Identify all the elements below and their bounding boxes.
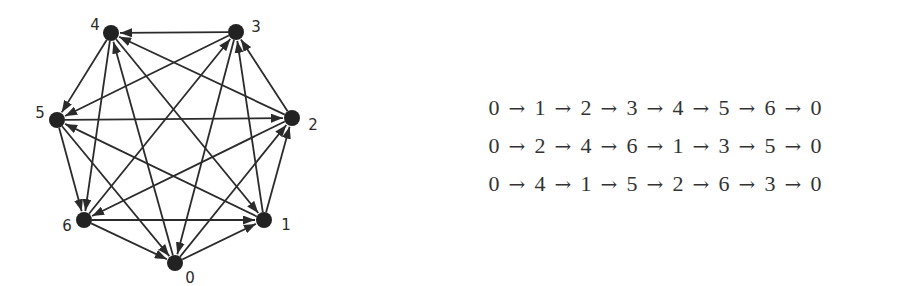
edge-1-to-2 — [266, 127, 290, 213]
tour-vertex: 1 — [534, 94, 546, 122]
node-label-4: 4 — [90, 16, 100, 34]
edge-5-to-0 — [62, 126, 169, 256]
arrow-right-icon: → — [776, 132, 810, 160]
node-6 — [76, 212, 92, 228]
tour-step-1: 0→1→2→3→4→5→6→0 — [488, 94, 822, 132]
arrow-right-icon: → — [546, 170, 580, 198]
label-layer: 0123456 — [35, 16, 318, 286]
edge-5-to-2 — [65, 118, 283, 120]
edge-4-to-6 — [85, 41, 110, 211]
arrow-right-icon: → — [638, 94, 672, 122]
tour-vertex: 5 — [718, 94, 730, 122]
arrow-right-icon: → — [730, 132, 764, 160]
node-label-1: 1 — [281, 216, 291, 234]
tour-vertex: 4 — [534, 170, 546, 198]
node-3 — [228, 24, 244, 40]
tour-vertex: 6 — [718, 170, 730, 198]
tour-vertex: 4 — [580, 132, 592, 160]
edge-1-to-5 — [65, 124, 257, 217]
edge-2-to-3 — [241, 40, 288, 112]
node-label-6: 6 — [62, 217, 72, 235]
tour-step-4: 0→4→1→5→2→6→3→0 — [488, 170, 822, 208]
arrow-right-icon: → — [730, 94, 764, 122]
arrow-right-icon: → — [638, 132, 672, 160]
node-label-5: 5 — [35, 104, 45, 122]
arrow-right-icon: → — [684, 132, 718, 160]
arrow-right-icon: → — [592, 94, 626, 122]
tour-list: 0→1→2→3→4→5→6→00→2→4→6→1→3→5→00→4→1→5→2→… — [488, 94, 822, 208]
node-4 — [103, 25, 119, 41]
arrow-right-icon: → — [546, 132, 580, 160]
tour-vertex: 0 — [488, 170, 500, 198]
tour-step-2: 0→2→4→6→1→3→5→0 — [488, 132, 822, 170]
arrow-right-icon: → — [500, 94, 534, 122]
arrow-right-icon: → — [546, 94, 580, 122]
node-0 — [167, 255, 183, 271]
edge-5-to-6 — [59, 128, 82, 212]
arrow-right-icon: → — [592, 170, 626, 198]
tour-vertex: 2 — [672, 170, 684, 198]
edge-0-to-2 — [180, 125, 286, 257]
node-label-2: 2 — [308, 116, 318, 134]
tour-vertex: 0 — [810, 132, 822, 160]
edge-3-to-0 — [177, 40, 234, 255]
tour-vertex: 2 — [534, 132, 546, 160]
arrow-right-icon: → — [730, 170, 764, 198]
arrow-right-icon: → — [684, 94, 718, 122]
arrow-right-icon: → — [592, 132, 626, 160]
edge-3-to-4 — [120, 32, 228, 33]
tour-vertex: 6 — [626, 132, 638, 160]
directed-graph: 0123456 — [0, 0, 360, 286]
edge-4-to-5 — [62, 40, 107, 113]
node-label-0: 0 — [185, 269, 195, 286]
edge-6-to-3 — [89, 39, 230, 214]
tour-vertex: 6 — [764, 94, 776, 122]
tour-vertex: 0 — [488, 94, 500, 122]
tour-vertex: 3 — [764, 170, 776, 198]
arrow-right-icon: → — [776, 170, 810, 198]
tour-vertex: 0 — [810, 94, 822, 122]
arrow-right-icon: → — [684, 170, 718, 198]
tour-vertex: 4 — [672, 94, 684, 122]
node-5 — [49, 112, 65, 128]
tour-vertex: 1 — [672, 132, 684, 160]
edge-6-to-0 — [91, 223, 167, 259]
node-1 — [256, 212, 272, 228]
tour-vertex: 5 — [764, 132, 776, 160]
arrow-right-icon: → — [638, 170, 672, 198]
arrow-right-icon: → — [776, 94, 810, 122]
tour-vertex: 0 — [810, 170, 822, 198]
arrow-right-icon: → — [500, 132, 534, 160]
node-layer — [49, 24, 300, 271]
arrow-right-icon: → — [500, 170, 534, 198]
tour-vertex: 3 — [626, 94, 638, 122]
tour-vertex: 0 — [488, 132, 500, 160]
tour-vertex: 2 — [580, 94, 592, 122]
tour-vertex: 5 — [626, 170, 638, 198]
tour-vertex: 3 — [718, 132, 730, 160]
tour-vertex: 1 — [580, 170, 592, 198]
node-2 — [284, 110, 300, 126]
node-label-3: 3 — [251, 18, 261, 36]
edge-layer — [59, 32, 290, 259]
